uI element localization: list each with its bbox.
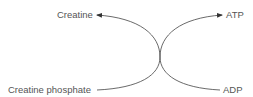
arrow-creatine-phosphate-to-creatine bbox=[97, 15, 160, 90]
reaction-arrows bbox=[0, 0, 253, 97]
arrow-adp-to-atp bbox=[160, 15, 222, 90]
